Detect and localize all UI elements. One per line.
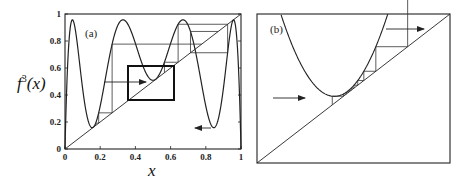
panel-b-parabola <box>281 14 388 96</box>
y-tick-label: 0.6 <box>50 63 62 73</box>
y-tick-label: 0.8 <box>50 36 62 46</box>
y-axis-title: f3(x) <box>17 73 46 93</box>
panel-b: (b) <box>257 0 465 179</box>
x-tick-label: 0.4 <box>130 152 142 162</box>
x-tick-label: 0.6 <box>165 152 177 162</box>
x-axis-title: x <box>147 161 156 179</box>
y-tick-label: 0.4 <box>50 90 62 100</box>
panel-a-label: (a) <box>85 27 98 40</box>
panel-a-tick-labels: 00.20.40.60.8100.20.40.60.81 <box>50 9 244 162</box>
x-tick-label: 0.8 <box>200 152 212 162</box>
x-tick-label: 1 <box>239 152 244 162</box>
panel-a-f3-curve <box>65 20 241 149</box>
y-tick-label: 1 <box>57 9 62 19</box>
panel-a: 00.20.40.60.8100.20.40.60.81 (a) x f3(x) <box>17 9 244 179</box>
figure: 00.20.40.60.8100.20.40.60.81 (a) x f3(x)… <box>0 0 465 179</box>
y-tick-label: 0 <box>57 144 62 154</box>
x-tick-label: 0 <box>63 152 68 162</box>
x-tick-label: 0.2 <box>95 152 107 162</box>
y-tick-label: 0.2 <box>50 117 62 127</box>
panel-b-label: (b) <box>270 23 283 36</box>
